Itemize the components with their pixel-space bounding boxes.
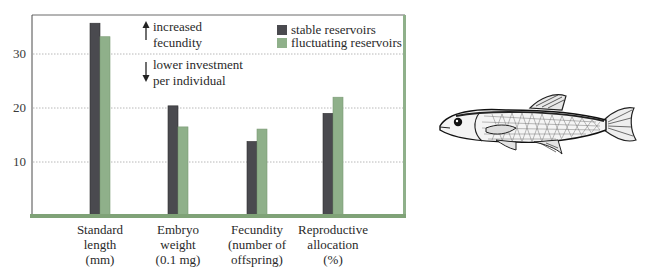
- x-category-labels: Standardlength(mm)Embryoweight(0.1 mg)Fe…: [77, 222, 368, 267]
- legend-label-fluctuating: fluctuating reservoirs: [291, 35, 402, 50]
- bar-fluctuating-3: [333, 97, 343, 216]
- y-tick-labels: 102030: [13, 46, 26, 169]
- bar-stable-3: [323, 113, 333, 216]
- bars: [90, 23, 343, 216]
- x-category-label: Embryo: [157, 222, 199, 237]
- up-arrow-icon: [143, 21, 150, 40]
- bar-stable-2: [247, 141, 257, 216]
- x-category-label: allocation: [307, 237, 359, 252]
- bar-stable-0: [90, 23, 100, 216]
- x-category-label: Standard: [77, 222, 124, 237]
- down-arrow-icon: [143, 62, 150, 82]
- x-axis-baseline: [30, 214, 406, 218]
- x-category-label: Reproductive: [298, 222, 368, 237]
- annotation-increased: increased: [153, 19, 203, 34]
- bar-fluctuating-2: [257, 129, 267, 216]
- x-category-label: (%): [323, 252, 343, 267]
- y-tick-label: 10: [13, 154, 26, 169]
- fish-icon: [436, 82, 642, 168]
- annotation-fecundity: fecundity: [153, 35, 203, 50]
- x-category-label: offspring): [231, 252, 283, 267]
- bar-stable-1: [168, 106, 178, 216]
- annotation-lower-investment: lower investment: [153, 57, 243, 72]
- x-category-label: (mm): [86, 252, 115, 267]
- x-category-label: (0.1 mg): [156, 252, 201, 267]
- bar-fluctuating-1: [178, 127, 188, 216]
- y-tick-label: 30: [13, 46, 26, 61]
- legend-swatch-stable: [277, 25, 287, 35]
- annotation-per-individual: per individual: [153, 73, 226, 88]
- x-category-label: (number of: [228, 237, 287, 252]
- legend: stable reservoirs fluctuating reservoirs: [277, 22, 402, 50]
- bar-chart: 102030 Standardlength(mm)Embryoweight(0.…: [0, 0, 420, 272]
- x-category-label: Fecundity: [231, 222, 283, 237]
- x-category-label: weight: [160, 237, 196, 252]
- y-tick-label: 20: [13, 100, 26, 115]
- bar-fluctuating-0: [100, 37, 110, 216]
- x-category-label: length: [84, 237, 117, 252]
- legend-swatch-fluctuating: [277, 38, 287, 48]
